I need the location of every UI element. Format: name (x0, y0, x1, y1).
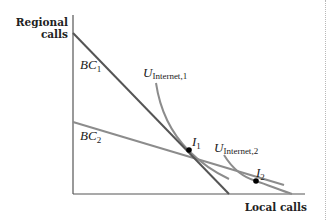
y-axis-label-line1: Regional (16, 16, 68, 28)
point-i1 (186, 147, 192, 153)
i1-label: I1 (191, 134, 201, 151)
y-axis-label-line2: calls (41, 28, 68, 40)
bc2-label: BC2 (80, 128, 101, 145)
axes (73, 15, 305, 194)
indifference-diagram: Regional calls Local calls BC1 BC2 UInte… (0, 0, 330, 220)
i2-label: I2 (255, 165, 265, 182)
u-internet-2-label: UInternet,2 (214, 140, 258, 156)
u-internet-1-label: UInternet,1 (143, 65, 187, 81)
x-axis-label: Local calls (245, 201, 307, 213)
page-edge-divider (325, 0, 326, 220)
